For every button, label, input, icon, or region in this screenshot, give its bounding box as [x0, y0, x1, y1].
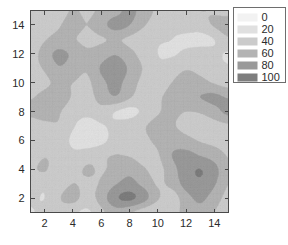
legend-label: 80 — [262, 59, 274, 71]
legend-label: 20 — [262, 23, 274, 35]
y-tick-label: 4 — [18, 163, 24, 175]
y-tick-label: 8 — [18, 106, 24, 118]
legend-swatch — [238, 50, 258, 58]
x-tick-label: 2 — [42, 217, 48, 229]
contour-figure: 2468101214 2468101214 020406080100 — [0, 0, 288, 245]
x-tick-label: 14 — [208, 217, 220, 229]
legend-label: 0 — [262, 11, 268, 23]
x-tick-label: 4 — [70, 217, 76, 229]
x-tick-label: 10 — [152, 217, 164, 229]
y-axis-tick-labels: 2468101214 — [12, 19, 24, 204]
legend-label: 60 — [262, 47, 274, 59]
x-tick-label: 12 — [180, 217, 192, 229]
y-tick-label: 12 — [12, 48, 24, 60]
x-axis-tick-labels: 2468101214 — [42, 217, 221, 229]
legend-swatch — [238, 74, 258, 82]
y-tick-label: 10 — [12, 77, 24, 89]
y-tick-label: 6 — [18, 134, 24, 146]
x-tick-label: 6 — [98, 217, 104, 229]
legend-swatch — [238, 26, 258, 34]
legend-swatch — [238, 38, 258, 46]
contour-bands — [31, 11, 229, 213]
y-tick-label: 14 — [12, 19, 24, 31]
legend-swatch — [238, 62, 258, 70]
y-tick-label: 2 — [18, 192, 24, 204]
contour-plot-svg: 2468101214 2468101214 020406080100 — [0, 0, 288, 245]
legend-label: 100 — [262, 71, 280, 83]
x-tick-label: 8 — [126, 217, 132, 229]
contour-legend[interactable]: 020406080100 — [234, 8, 286, 84]
legend-label: 40 — [262, 35, 274, 47]
legend-swatch — [238, 14, 258, 22]
